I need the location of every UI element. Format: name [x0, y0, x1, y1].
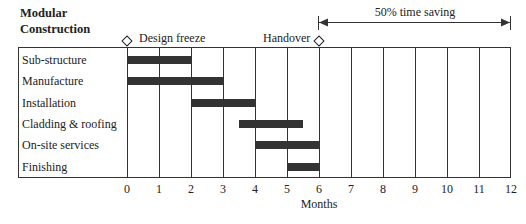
gridline-6 — [319, 47, 320, 178]
bar-finishing — [287, 163, 319, 171]
arrow-right-head-icon — [500, 17, 510, 28]
x-tick-1: 1 — [149, 182, 169, 197]
x-tick-10: 10 — [437, 182, 457, 197]
x-tick-6: 6 — [309, 182, 329, 197]
design-freeze-label: Design freeze — [139, 31, 205, 46]
time-saving-label: 50% time saving — [365, 5, 465, 20]
gridline-2 — [191, 47, 192, 178]
gridline-5 — [287, 47, 288, 178]
chart-frame — [18, 47, 511, 178]
x-tick-0: 0 — [117, 182, 137, 197]
gridline-0 — [127, 47, 128, 178]
gridline-7 — [351, 47, 352, 178]
row-label-cladding-roofing: Cladding & roofing — [22, 117, 117, 132]
row-label-on-site-services: On-site services — [22, 138, 99, 153]
gridline-10 — [447, 47, 448, 178]
bar-sub-structure — [127, 56, 191, 64]
bar-installation — [191, 99, 255, 107]
arrow-left-head-icon — [319, 17, 329, 28]
gridline-11 — [479, 47, 480, 178]
arrow-end-tick — [510, 16, 511, 30]
design-freeze-diamond-icon — [121, 35, 132, 46]
row-label-manufacture: Manufacture — [22, 74, 83, 89]
x-axis-label: Months — [289, 197, 349, 212]
chart-title: Modular Construction — [20, 5, 90, 37]
x-tick-3: 3 — [213, 182, 233, 197]
x-tick-8: 8 — [373, 182, 393, 197]
x-tick-9: 9 — [405, 182, 425, 197]
gridline-1 — [159, 47, 160, 178]
x-tick-4: 4 — [245, 182, 265, 197]
time-saving-arrow-line — [319, 22, 510, 23]
x-tick-7: 7 — [341, 182, 361, 197]
row-label-sub-structure: Sub-structure — [22, 53, 87, 68]
x-tick-12: 12 — [501, 182, 521, 197]
handover-label: Handover — [263, 31, 310, 46]
bar-cladding-roofing — [239, 120, 303, 128]
title-line-1: Modular — [20, 5, 90, 21]
row-label-finishing: Finishing — [22, 160, 67, 175]
row-label-installation: Installation — [22, 96, 76, 111]
handover-diamond-icon — [313, 35, 324, 46]
gridline-3 — [223, 47, 224, 178]
x-tick-5: 5 — [277, 182, 297, 197]
x-tick-2: 2 — [181, 182, 201, 197]
gridline-8 — [383, 47, 384, 178]
bar-manufacture — [127, 77, 223, 85]
title-line-2: Construction — [20, 21, 90, 37]
gridline-4 — [255, 47, 256, 178]
x-tick-11: 11 — [469, 182, 489, 197]
bar-on-site-services — [255, 141, 319, 149]
gridline-9 — [415, 47, 416, 178]
